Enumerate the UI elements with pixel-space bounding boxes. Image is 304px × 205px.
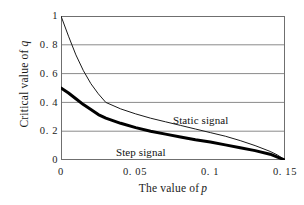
x-tick-label: 0. 15: [255, 166, 304, 178]
y-tick-label: 0. 6: [14, 69, 58, 79]
x-axis-title-symbol: p: [199, 182, 207, 194]
x-tick-label: 0: [31, 166, 91, 178]
plot-area: Static signal Step signal: [61, 16, 285, 160]
series-label-static-signal: Static signal: [173, 114, 228, 126]
series-label-step-signal: Step signal: [116, 146, 166, 158]
chart-figure: Critical value ofq 1 0. 8 0. 6 0. 4 0. 2…: [0, 0, 304, 205]
x-axis-title: The value ofp: [61, 182, 285, 194]
x-tick-label: 0. 05: [105, 166, 165, 178]
y-tick-label: 0. 2: [14, 126, 58, 136]
x-axis-title-text: The value of: [139, 182, 200, 194]
y-tick-label: 1: [14, 11, 58, 21]
y-tick-label: 0: [14, 155, 58, 165]
series-line-static-signal: [61, 16, 285, 160]
y-tick-label: 0. 4: [14, 98, 58, 108]
plot-frame: [62, 17, 285, 160]
y-tick-label: 0. 8: [14, 40, 58, 50]
x-tick-label: 0. 1: [180, 166, 240, 178]
x-axis-tick-labels: 0 0. 05 0. 1 0. 15: [0, 166, 304, 182]
